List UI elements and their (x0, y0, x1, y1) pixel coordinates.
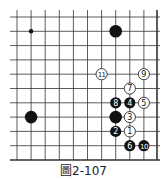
white-stone-11: 11 (96, 69, 107, 80)
black-stone-4: 4 (124, 97, 135, 108)
black-stone (109, 111, 122, 124)
black-stone-10: 10 (138, 140, 149, 151)
move-number: 8 (113, 99, 118, 108)
black-stone (25, 111, 38, 124)
black-stone-2: 2 (110, 126, 121, 137)
white-stone-7: 7 (124, 83, 135, 94)
move-number: 6 (127, 142, 132, 151)
white-stone-3: 3 (124, 112, 135, 123)
move-number: 5 (141, 99, 146, 108)
move-number: 3 (127, 113, 132, 122)
black-stone (109, 25, 122, 38)
move-number: 7 (127, 84, 132, 93)
move-number: 2 (113, 127, 118, 136)
white-stone-5: 5 (138, 97, 149, 108)
move-number: 9 (141, 70, 146, 79)
black-stone-6: 6 (124, 140, 135, 151)
move-number: 11 (98, 71, 106, 79)
black-stone-8: 8 (110, 97, 121, 108)
move-number: 4 (127, 99, 132, 108)
figure-caption: 圖2-107 (0, 163, 167, 179)
move-number: 1 (127, 127, 132, 136)
go-board: 1234567891011 (0, 0, 167, 165)
white-stone-1: 1 (124, 126, 135, 137)
move-number: 10 (140, 143, 148, 151)
white-stone-9: 9 (138, 69, 149, 80)
star-points (29, 29, 33, 33)
star-point (29, 29, 33, 33)
